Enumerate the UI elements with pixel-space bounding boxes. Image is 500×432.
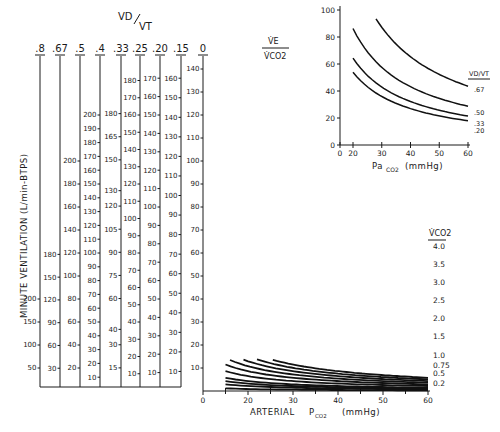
scale-tick-label: 130: [186, 88, 199, 96]
scale-tick-label: 10: [148, 369, 157, 377]
scale-tick-label: 160: [63, 203, 76, 211]
scale-tick-label: 100: [186, 157, 199, 165]
main-plot: 020304050600.20.50.751.01.52.02.53.03.54…: [201, 242, 450, 406]
scale-tick-label: 120: [186, 111, 199, 119]
inset-x-tick-label: 60: [463, 149, 473, 158]
scale-tick-label: 90: [148, 222, 157, 230]
scale-tick-label: 40: [68, 341, 77, 349]
vdvt-column-header: .33: [113, 43, 129, 54]
scale-tick-label: 120: [63, 249, 76, 257]
vco2-curve-label: 4.0: [433, 242, 445, 251]
scale-tick-label: 80: [68, 295, 77, 303]
scale-tick-label: 20: [128, 353, 137, 361]
scale-tick-label: 10: [88, 374, 97, 382]
scale-tick-label: 180: [43, 251, 56, 259]
vco2-curve-label: 3.0: [433, 278, 445, 287]
inset-y-tick-label: 100: [321, 6, 336, 15]
scale-tick-label: 80: [128, 249, 137, 257]
scale-tick-label: 110: [186, 134, 199, 142]
scale-tick-label: 160: [123, 111, 136, 119]
scale-tick-label: 140: [164, 114, 177, 122]
vdvt-header-vt: VT: [139, 21, 153, 32]
x-tick-label: 0: [201, 396, 206, 405]
scale-tick-label: 90: [169, 211, 178, 219]
scale-tick-label: 80: [169, 231, 178, 239]
scale-tick-label: 50: [128, 301, 137, 309]
scale-tick-label: 200: [83, 111, 96, 119]
scale-tick-label: 105: [104, 226, 117, 234]
scale-tick-label: 130: [123, 163, 136, 171]
inset-curve-label: .67: [474, 86, 484, 94]
inset-xlabel-pa: Pa: [372, 161, 383, 171]
vco2-curve-label: 1.0: [433, 351, 445, 360]
vdvt-column-header: .4: [95, 43, 105, 54]
scale-tick-label: 30: [169, 329, 178, 337]
scale-tick-label: 60: [68, 318, 77, 326]
scale-tick-label: 50: [148, 295, 157, 303]
scale-tick-label: 30: [109, 341, 118, 349]
scale-tick-label: 150: [123, 129, 136, 137]
scale-tick-label: 180: [63, 180, 76, 188]
scale-tick-label: 140: [83, 194, 96, 202]
scale-tick-label: 110: [123, 198, 136, 206]
scale-tick-label: 80: [148, 240, 157, 248]
scale-tick-label: 60: [128, 284, 137, 292]
scale-tick-label: 10: [169, 368, 178, 376]
scale-tick-label: 110: [143, 185, 156, 193]
scale-tick-label: 20: [169, 348, 178, 356]
inset-ratio-top: V̇E: [268, 36, 279, 46]
scale-tick-label: 40: [169, 309, 178, 317]
vco2-curve-label: 2.5: [433, 296, 445, 305]
vco2-curve-label: 2.0: [433, 314, 445, 323]
scale-tick-label: 40: [109, 326, 118, 334]
scale-tick-label: 100: [23, 341, 36, 349]
vdvt-column-header: .67: [52, 43, 68, 54]
scale-tick-label: 80: [88, 277, 97, 285]
inset-curve-label: .50: [474, 109, 484, 117]
vdvt-header-vd: VD: [118, 11, 133, 22]
vdvt-column-header: .8: [35, 43, 45, 54]
inset-xlabel-units: (mmHg): [405, 161, 443, 171]
legend-vco2-title: V̇CO2: [429, 228, 451, 238]
inset-x-tick-label: 0: [338, 149, 343, 158]
inset-x-tick-label: 20: [348, 149, 358, 158]
scale-tick-label: 40: [148, 314, 157, 322]
scale-tick-label: 30: [148, 332, 157, 340]
inset-x-tick-label: 30: [377, 149, 387, 158]
scale-tick-label: 150: [164, 94, 177, 102]
scale-tick-label: 80: [191, 203, 200, 211]
x-axis-pco2-sub: CO2: [315, 413, 327, 419]
scale-tick-label: 10: [191, 364, 200, 372]
scale-tick-label: 100: [143, 203, 156, 211]
scale-tick-label: 10: [128, 370, 137, 378]
scale-tick-label: 30: [191, 318, 200, 326]
scale-tick-label: 100: [83, 249, 96, 257]
scale-tick-label: 75: [109, 272, 118, 280]
scale-tick-label: 70: [191, 226, 200, 234]
scale-tick-label: 70: [128, 267, 137, 275]
inset-x-tick-label: 50: [434, 149, 444, 158]
inset-curve-label: .20: [474, 127, 484, 135]
inset-y-tick-label: 60: [325, 60, 335, 69]
vdvt-column-header: .5: [75, 43, 85, 54]
scale-tick-label: 130: [164, 133, 177, 141]
x-tick-label: 30: [288, 396, 298, 405]
scale-tick-label: 200: [63, 157, 76, 165]
scale-tick-label: 180: [104, 110, 117, 118]
x-tick-label: 20: [243, 396, 253, 405]
scale-tick-label: 40: [191, 295, 200, 303]
inset-curve-.50: [353, 29, 468, 107]
scale-tick-label: 170: [143, 75, 156, 83]
inset-plot: 02040608010002030405060.20.33.50.67: [321, 6, 485, 159]
vdvt-column-header: .20: [152, 43, 168, 54]
scale-tick-label: 20: [191, 341, 200, 349]
vdvt-scale-columns: .850100150200.67306090120150180.52040608…: [23, 43, 208, 391]
inset-curve-.67: [376, 19, 468, 86]
scale-tick-label: 20: [68, 364, 77, 372]
x-axis-title: ARTERIAL: [250, 407, 295, 417]
vdvt-column-header: .15: [173, 43, 189, 54]
scale-tick-label: 100: [123, 215, 136, 223]
scale-tick-label: 130: [104, 187, 117, 195]
scale-tick-label: 110: [164, 172, 177, 180]
scale-tick-label: 170: [83, 153, 96, 161]
